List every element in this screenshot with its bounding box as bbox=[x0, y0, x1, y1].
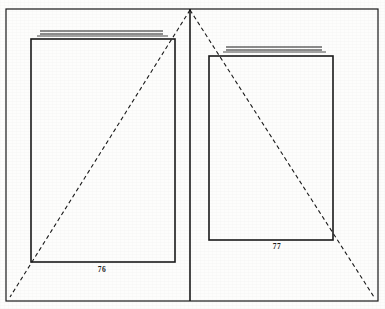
apex-vertex-marker bbox=[189, 9, 191, 11]
outer-frame bbox=[6, 9, 378, 301]
left-page-rectangle bbox=[31, 39, 175, 262]
left-page-rules bbox=[37, 31, 168, 36]
right-page-number-label: 77 bbox=[273, 242, 281, 251]
right-page-rules bbox=[223, 47, 326, 52]
right-page-rectangle bbox=[209, 56, 333, 240]
dashed-diagonal-right bbox=[190, 10, 374, 297]
left-page-number-label: 76 bbox=[98, 265, 106, 274]
figure-canvas bbox=[0, 0, 385, 309]
dashed-diagonal-left bbox=[10, 10, 190, 297]
figure-container: 76 77 bbox=[0, 0, 385, 309]
